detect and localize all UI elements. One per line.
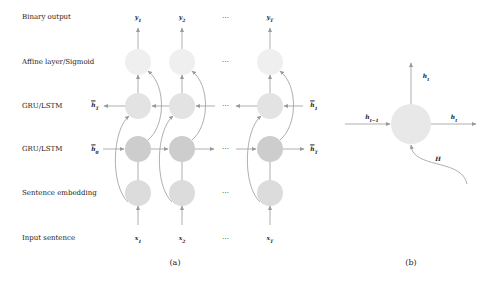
input-x2: x2	[179, 234, 186, 243]
forward-left-label: h0	[91, 145, 99, 154]
cell-output-up-label: ht	[423, 72, 429, 81]
cell-input-label: ht−1	[365, 113, 378, 122]
caption-b: (b)	[405, 258, 416, 267]
caption-a: (a)	[169, 258, 180, 267]
row-label-embedding: Sentence embedding	[22, 189, 97, 197]
output-y2: y2	[179, 13, 186, 22]
ellipsis-input: ⋯	[222, 235, 229, 243]
ellipsis-backward: ⋯	[222, 102, 229, 110]
embedding-nodes	[125, 180, 283, 206]
cell-output-right-label: ht	[451, 113, 457, 122]
ellipsis-embedding: ⋯	[222, 189, 229, 197]
row-label-gru-forward: GRU/LSTM	[22, 145, 62, 153]
row-label-gru-backward: GRU/LSTM	[22, 102, 62, 110]
ellipsis-output: ⋯	[222, 14, 229, 22]
ellipsis-affine: ⋯	[222, 58, 229, 66]
cell-node	[391, 104, 431, 144]
input-x1: x1	[135, 234, 142, 243]
row-label-affine: Affine layer/Sigmoid	[22, 58, 94, 66]
row-label-binary-output: Binary output	[22, 13, 71, 21]
ellipsis-forward: ⋯	[222, 145, 229, 153]
row-label-input: Input sentence	[22, 234, 75, 242]
backward-left-label: hT	[91, 101, 99, 110]
cell-context-label: H	[435, 155, 441, 162]
output-yT: yT	[267, 13, 274, 22]
output-y1: y1	[135, 13, 142, 22]
input-xT: xT	[267, 234, 274, 243]
forward-right-label: hT	[310, 145, 318, 154]
backward-right-label: h1	[310, 101, 318, 110]
